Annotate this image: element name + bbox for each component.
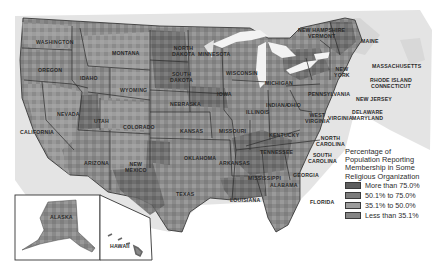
label-south-carolina-line2: Carolina [308, 159, 337, 165]
label-maine: Maine [361, 39, 379, 45]
label-north-carolina-line2: Carolina [316, 142, 345, 148]
label-iowa: Iowa [217, 92, 232, 98]
label-alabama: Alabama [270, 183, 298, 189]
label-mississippi: Mississippi [248, 176, 281, 182]
label-new-york-line2: York [334, 73, 350, 79]
label-missouri: Missouri [219, 129, 246, 135]
legend-label: Less than 35.1% [365, 211, 419, 220]
label-kansas: Kansas [180, 129, 203, 135]
legend-label: More than 75.0% [365, 181, 420, 190]
label-hawaii: Hawaii [110, 244, 130, 250]
label-west-virginia-line2: Virginia [305, 119, 330, 125]
label-georgia: Georgia [293, 173, 319, 179]
label-south-dakota-line2: Dakota [170, 78, 193, 84]
label-delaware-maryland: Delaware Maryland [352, 110, 383, 121]
legend-swatch [345, 202, 361, 209]
legend: Percentage of Population Reporting Membe… [345, 148, 435, 220]
label-washington: Washington [36, 40, 74, 46]
label-rhode-island-connecticut: Rhode Island Connecticut [370, 78, 412, 89]
label-michigan: Michigan [265, 81, 293, 87]
label-kentucky: Kentucky [269, 133, 299, 139]
legend-swatch [345, 182, 361, 189]
label-north-dakota: North Dakota [172, 46, 195, 57]
us-religion-map: Washington Oregon Idaho Montana Wyoming … [0, 0, 435, 271]
label-massachusetts: Massachusetts [372, 64, 421, 70]
legend-swatch [345, 192, 361, 199]
label-wyoming: Wyoming [120, 88, 147, 94]
label-utah: Utah [94, 119, 109, 125]
legend-label: 50.1% to 75.0% [365, 191, 416, 200]
label-montana: Montana [112, 51, 140, 57]
label-ohio: Ohio [287, 103, 301, 109]
label-vermont: Vermont [298, 34, 345, 40]
label-south-dakota: South Dakota [170, 72, 193, 83]
label-arkansas: Arkansas [219, 161, 250, 167]
label-wisconsin: Wisconsin [226, 71, 258, 77]
legend-item: More than 75.0% [345, 181, 435, 190]
label-california: California [20, 130, 54, 136]
label-nebraska: Nebraska [170, 102, 201, 108]
label-alaska: Alaska [50, 215, 73, 221]
label-new-york: New York [334, 67, 350, 78]
label-pennsylvania: Pennsylvania [308, 92, 350, 98]
label-minnesota: Minnesota [198, 52, 231, 58]
label-idaho: Idaho [80, 76, 98, 82]
label-new-jersey: New Jersey [356, 97, 392, 103]
label-new-mexico: New Mexico [125, 162, 147, 173]
label-oklahoma: Oklahoma [184, 156, 216, 162]
legend-title: Percentage of Population Reporting Membe… [345, 148, 435, 181]
label-new-mexico-line2: Mexico [125, 168, 147, 174]
label-connecticut: Connecticut [370, 84, 412, 90]
label-nevada: Nevada [57, 112, 80, 118]
label-florida: Florida [310, 200, 334, 206]
label-virginia: Virginia [328, 116, 353, 122]
label-tennessee: Tennessee [260, 150, 293, 156]
label-south-carolina: South Carolina [308, 153, 337, 164]
label-illinois: Illinois [246, 110, 270, 116]
legend-swatch [345, 212, 361, 219]
label-colorado: Colorado [123, 125, 155, 131]
label-north-carolina: North Carolina [316, 136, 345, 147]
label-west-virginia: West Virginia [305, 113, 330, 124]
label-north-dakota-line2: Dakota [172, 52, 195, 58]
label-texas: Texas [176, 192, 194, 198]
legend-title-line: Religious Organization [345, 173, 435, 181]
label-maryland: Maryland [352, 116, 383, 122]
label-new-hampshire-vermont: New Hampshire Vermont [298, 28, 345, 39]
legend-label: 35.1% to 50.0% [365, 201, 416, 210]
label-indiana: Indiana [266, 103, 289, 109]
label-louisiana: Louisiana [230, 198, 260, 204]
label-arizona: Arizona [84, 161, 109, 167]
legend-item: Less than 35.1% [345, 211, 435, 220]
label-oregon: Oregon [38, 68, 62, 74]
legend-item: 35.1% to 50.0% [345, 201, 435, 210]
legend-item: 50.1% to 75.0% [345, 191, 435, 200]
